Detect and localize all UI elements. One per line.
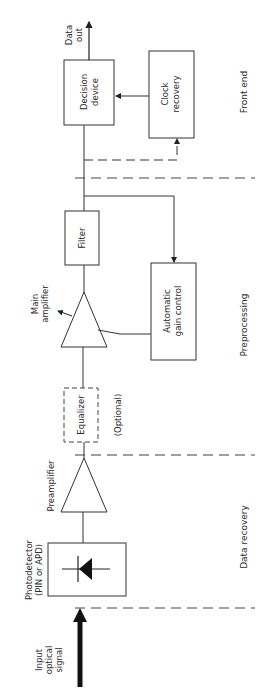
- agc-label: Automatic gain control: [162, 286, 183, 337]
- svg-text:Data: Data: [64, 25, 74, 45]
- preamplifier-label: Preamplifier: [46, 460, 56, 512]
- filter-label: Filter: [77, 227, 87, 249]
- input-label: Input optical signal: [34, 646, 64, 675]
- main-amplifier-block: [61, 292, 107, 347]
- svg-text:Input: Input: [34, 648, 44, 671]
- svg-text:signal: signal: [54, 647, 64, 672]
- agc-feedback-line: [98, 330, 151, 334]
- svg-text:Automatic: Automatic: [162, 289, 172, 333]
- svg-text:out: out: [74, 27, 84, 42]
- photodetector-label: Photodetector (PIN or APD): [24, 539, 44, 600]
- section-label-preprocessing: Preprocessing: [239, 294, 249, 357]
- data-out-label: Data out: [64, 25, 84, 45]
- svg-text:Main: Main: [30, 294, 40, 314]
- svg-text:recovery: recovery: [171, 75, 181, 112]
- clock-recovery-feed: [84, 140, 177, 160]
- decision-device-label: Decision device: [79, 74, 100, 110]
- decision-device-block: [64, 60, 114, 125]
- svg-text:optical: optical: [44, 646, 54, 675]
- svg-text:amplifier: amplifier: [40, 285, 50, 323]
- svg-text:device: device: [90, 78, 100, 106]
- section-label-front-end: Data recovery: [239, 504, 249, 568]
- svg-text:Decision: Decision: [79, 74, 89, 110]
- main-amplifier-label: Main amplifier: [30, 285, 50, 323]
- svg-text:Photodetector: Photodetector: [24, 539, 34, 600]
- preamplifier-block: [61, 458, 107, 512]
- main-amplifier-pointer: [58, 311, 72, 316]
- receiver-block-diagram: Input optical signal Photodetector (PIN …: [0, 0, 261, 697]
- equalizer-optional-note: (Optional): [113, 394, 123, 437]
- svg-text:(PIN or APD): (PIN or APD): [34, 544, 44, 596]
- svg-text:gain control: gain control: [173, 286, 183, 337]
- section-label-data-recovery: Front end: [239, 71, 249, 114]
- input-arrow: [73, 608, 87, 687]
- svg-text:Clock: Clock: [160, 82, 170, 105]
- equalizer-label: Equalizer: [76, 395, 86, 435]
